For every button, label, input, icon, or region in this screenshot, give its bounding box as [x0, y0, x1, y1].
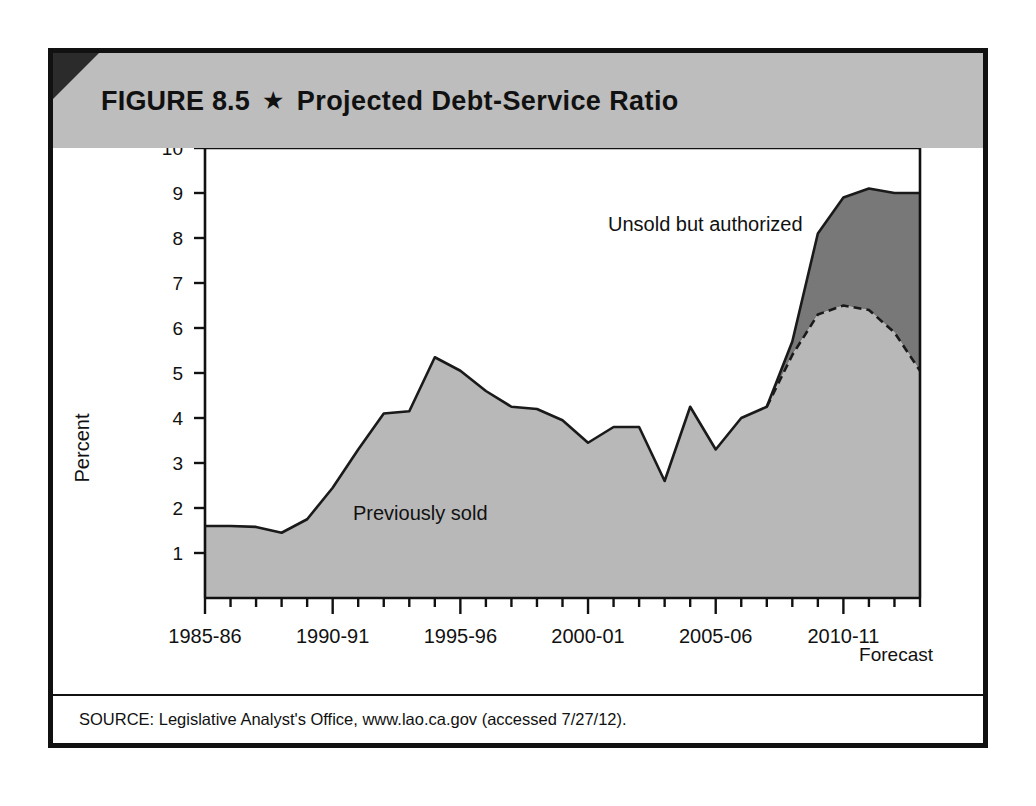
y-axis-tick-label: 3	[172, 453, 183, 474]
annotation-unsold-but-authorized: Unsold but authorized	[608, 213, 803, 235]
figure-header-band: FIGURE 8.5★Projected Debt-Service Ratio	[53, 53, 983, 148]
x-axis-tick-label: 2005-06	[679, 625, 752, 647]
y-axis-tick-label: 10	[162, 148, 183, 159]
source-note: SOURCE: Legislative Analyst's Office, ww…	[79, 710, 627, 729]
forecast-label: Forecast	[859, 644, 934, 665]
figure-number: FIGURE 8.5	[101, 85, 250, 115]
y-axis-tick-label: 1	[172, 543, 183, 564]
y-axis-tick-label: 8	[172, 228, 183, 249]
y-axis-tick-label: 9	[172, 183, 183, 204]
y-axis-tick-label: 7	[172, 273, 183, 294]
y-axis-tick-label: 4	[172, 408, 183, 429]
x-axis-tick-label: 1985-86	[168, 625, 241, 647]
x-axis-tick-label: 2000-01	[551, 625, 624, 647]
y-axis-tick-label: 5	[172, 363, 183, 384]
y-axis-title: Percent	[71, 413, 93, 482]
x-axis-tick-label: 1995-96	[424, 625, 497, 647]
figure-container: FIGURE 8.5★Projected Debt-Service Ratio …	[48, 48, 988, 748]
debt-service-ratio-area-chart: 123456789101985-861990-911995-962000-012…	[53, 148, 983, 693]
x-axis-tick-label: 1990-91	[296, 625, 369, 647]
star-icon: ★	[262, 85, 285, 113]
annotation-previously-sold: Previously sold	[353, 502, 488, 524]
figure-title-text: Projected Debt-Service Ratio	[297, 85, 679, 115]
source-divider	[53, 694, 983, 696]
chart-plot-area: 123456789101985-861990-911995-962000-012…	[53, 148, 983, 693]
figure-title: FIGURE 8.5★Projected Debt-Service Ratio	[101, 85, 679, 116]
y-axis-tick-label: 6	[172, 318, 183, 339]
header-corner-triangle	[53, 53, 99, 99]
y-axis-tick-label: 2	[172, 498, 183, 519]
